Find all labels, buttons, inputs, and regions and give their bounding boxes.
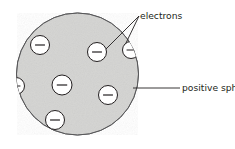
- positive-sphere-group: [17, 13, 139, 135]
- electron-edge-left: [8, 78, 25, 95]
- leader-electrons-to-edge-electron: [126, 16, 139, 43]
- plum-pudding-diagram: electrons positive sphere: [0, 0, 235, 149]
- electrons-label: electrons: [140, 10, 183, 21]
- electron-lower-right: [99, 86, 118, 105]
- electron-upper-left: [31, 36, 50, 55]
- electron-edge-left-circle: [8, 78, 25, 95]
- electron-upper-right: [88, 43, 107, 62]
- positive-sphere-texture: [17, 14, 138, 135]
- positive-sphere-label: positive sphere: [182, 82, 235, 93]
- electron-bottom: [46, 111, 65, 130]
- diagram-canvas: electrons positive sphere: [0, 0, 235, 149]
- electron-center: [52, 75, 72, 95]
